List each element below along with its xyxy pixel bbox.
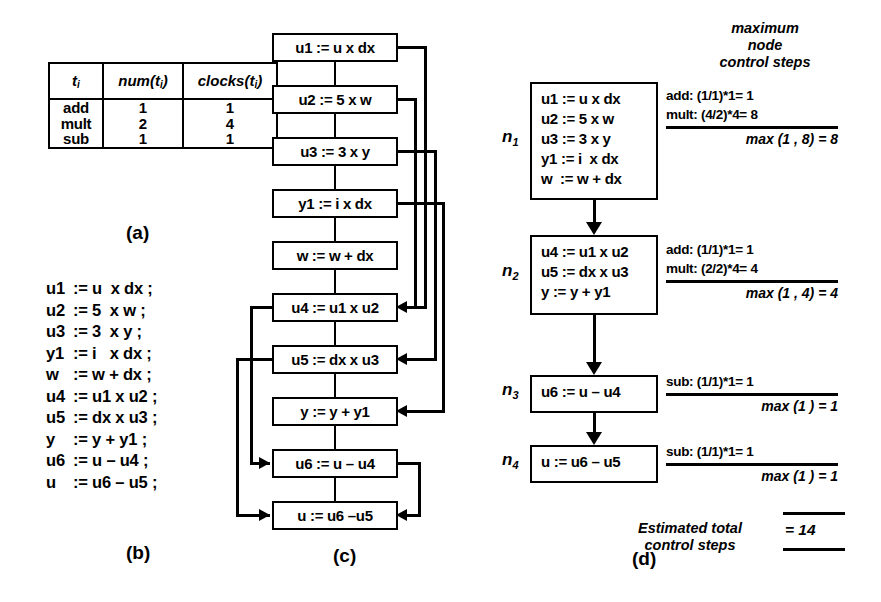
dfg-chain-link [334, 426, 337, 449]
node-label-letter: n [502, 127, 512, 146]
code-line-lhs: y1 [46, 343, 73, 365]
dfg-node: u5 := dx x u3 [272, 345, 398, 374]
dfg-wire-y1-down [442, 202, 445, 410]
code-line-lhs: u4 [46, 386, 73, 408]
dfg-chain-link [334, 374, 337, 397]
node-label: n4 [502, 450, 519, 471]
dfg-node: u2 := 5 x w [272, 85, 398, 114]
dfg-node: w := w + dx [272, 241, 398, 270]
code-line: u:= u6 – u5 ; [46, 472, 157, 494]
dfg-node: u := u6 –u5 [272, 501, 398, 530]
code-line: u4:= u1 x u2 ; [46, 386, 157, 408]
annotation-max: max (1 , 4) = 4 [666, 284, 838, 302]
node-label: n3 [502, 380, 519, 401]
total-value: = 14 [785, 521, 816, 539]
caption-a: (a) [126, 222, 149, 244]
dfg-wire-u1-out [398, 46, 424, 49]
code-line-lhs: u5 [46, 407, 73, 429]
code-line-body: := u1 x u2 ; [73, 386, 157, 408]
dfg-arrowhead-into-u4-right [396, 301, 407, 313]
node-annotation: sub: (1/1)*1= 1max (1 ) = 1 [666, 372, 838, 415]
panel-b-code-listing: u1:= u x dx ;u2:= 5 x w ;u3:= 3 x y ;y1:… [46, 278, 157, 493]
code-line-body: := 3 x y ; [73, 321, 142, 343]
dfg-chain-link [334, 218, 337, 241]
panel-c-dataflow-graph: u1 := u x dxu2 := 5 x wu3 := 3 x yy1 := … [228, 25, 443, 545]
partition-node-box: u1 := u x dxu2 := 5 x wu3 := 3 x yy1 := … [530, 82, 658, 200]
dfg-node: u3 := 3 x y [272, 137, 398, 166]
annotation-rule [666, 126, 838, 129]
caption-b: (b) [126, 542, 150, 564]
dfg-arrowhead-into-u6-left [259, 457, 270, 469]
node-statement: w := w + dx [541, 169, 648, 189]
code-line: y1:= i x dx ; [46, 343, 157, 365]
node-label-letter: n [502, 450, 512, 469]
annotation-max: max (1 ) = 1 [666, 397, 838, 415]
annotation-line: add: (1/1)*1= 1 [666, 240, 838, 259]
dfg-wire-u4-out-left [250, 306, 272, 309]
annotation-line: add: (1/1)*1= 1 [666, 86, 838, 105]
max-node-control-steps-header: maximum node control steps [675, 20, 855, 71]
annotation-line: sub: (1/1)*1= 1 [666, 442, 838, 461]
code-line: u6:= u – u4 ; [46, 450, 157, 472]
annotation-line: mult: (4/2)*4= 8 [666, 105, 838, 124]
node-label-index: 2 [512, 270, 518, 282]
cell-num-list: 1 2 1 [103, 99, 183, 148]
dfg-wire-u1-into-u4 [406, 306, 427, 309]
code-line-lhs: w [46, 364, 73, 386]
op-add: add [50, 100, 102, 116]
num-mult: 2 [104, 116, 182, 132]
code-line-lhs: u3 [46, 321, 73, 343]
dfg-chain-link [334, 166, 337, 189]
arrow-head-icon [586, 432, 602, 445]
col-header-type: ti [49, 63, 103, 99]
annotation-line: mult: (2/2)*4= 4 [666, 259, 838, 278]
code-line: u5:= dx x u3 ; [46, 407, 157, 429]
dfg-chain-link [334, 114, 337, 137]
code-line: u2:= 5 x w ; [46, 300, 157, 322]
dfg-wire-u3-out [398, 150, 434, 153]
caption-d: (d) [632, 548, 656, 570]
code-line-body: := dx x u3 ; [73, 407, 157, 429]
node-statement: u4 := u1 x u2 [541, 242, 648, 262]
code-line-body: := u – u4 ; [73, 450, 148, 472]
code-line-body: := w + dx ; [73, 364, 152, 386]
annotation-max: max (1 ) = 1 [666, 467, 838, 485]
node-label-letter: n [502, 380, 512, 399]
dfg-wire-u6-down-right [418, 462, 421, 514]
arrow-stem [593, 315, 596, 362]
partition-node-box: u := u6 – u5 [530, 445, 658, 483]
dfg-wire-u1-down [424, 46, 427, 306]
dfg-arrowhead-into-u-left [259, 509, 270, 521]
cell-operation-list: add mult sub [49, 99, 103, 148]
total-rule-bottom [783, 548, 845, 551]
dfg-chain-link [334, 322, 337, 345]
code-line-lhs: u1 [46, 278, 73, 300]
total-label-line-2: control steps [605, 537, 775, 554]
header-line-2: node [675, 37, 855, 54]
node-label: n1 [502, 127, 519, 148]
node-statement: u6 := u – u4 [541, 382, 648, 402]
op-mult: mult [50, 116, 102, 132]
total-label-line-1: Estimated total [605, 520, 775, 537]
dfg-chain-link [334, 270, 337, 293]
caption-c: (c) [333, 545, 356, 567]
num-sub: 1 [104, 131, 182, 147]
node-statement: y := y + y1 [541, 282, 648, 302]
header-line-3: control steps [675, 54, 855, 71]
dfg-wire-u5-down-left [236, 358, 239, 514]
node-label-index: 4 [512, 459, 518, 471]
node-annotation: sub: (1/1)*1= 1max (1 ) = 1 [666, 442, 838, 485]
node-statement: u1 := u x dx [541, 89, 648, 109]
header-line-1: maximum [675, 20, 855, 37]
partition-node-box: u4 := u1 x u2u5 := dx x u3y := y + y1 [530, 235, 658, 315]
dfg-node: u6 := u – u4 [272, 449, 398, 478]
annotation-max: max (1 , 8) = 8 [666, 130, 838, 148]
arrow-head-icon [586, 222, 602, 235]
dfg-node: y := y + y1 [272, 397, 398, 426]
num-add: 1 [104, 100, 182, 116]
partition-node-box: u6 := u – u4 [530, 375, 658, 413]
code-line-lhs: u2 [46, 300, 73, 322]
dfg-wire-u4-down-left [250, 306, 253, 462]
code-line-body: := u x dx ; [73, 278, 153, 300]
dfg-node: u1 := u x dx [272, 33, 398, 62]
